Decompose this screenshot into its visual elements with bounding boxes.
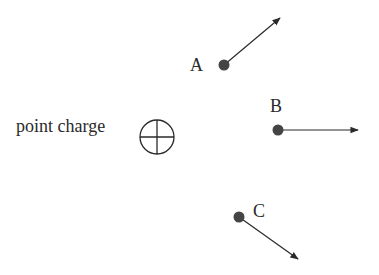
positive-charge-icon [140,120,174,154]
point-a-dot [219,60,230,71]
point-c-label: C [253,201,265,221]
point-charge-label: point charge [16,116,105,136]
point-b: B [270,96,358,136]
point-b-dot [273,125,284,136]
point-a: A [190,18,280,75]
point-a-label: A [190,55,203,75]
field-diagram: point charge A B C [0,0,379,275]
point-c-dot [234,212,245,223]
point-charge: point charge [16,116,174,154]
field-vector-a [224,18,280,65]
field-vector-c [239,217,298,259]
point-b-label: B [270,96,282,116]
point-c: C [234,201,299,259]
